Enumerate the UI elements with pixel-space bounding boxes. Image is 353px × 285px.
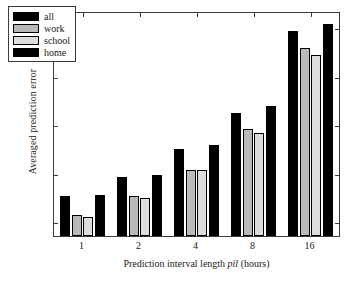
x-tick-mark-top: [83, 13, 84, 17]
bar-work-2: [129, 196, 139, 236]
legend-label-all: all: [44, 11, 54, 22]
bar-all-8: [231, 113, 241, 236]
legend-label-school: school: [44, 35, 70, 46]
x-tick-label: 4: [176, 240, 216, 251]
bar-work-16: [300, 48, 310, 236]
x-tick-mark-top: [311, 13, 312, 17]
bar-school-2: [140, 198, 150, 236]
bar-school-1: [83, 217, 93, 236]
bar-school-4: [197, 170, 207, 236]
bar-home-1: [95, 195, 105, 236]
x-axis-label: Prediction interval length pil (hours): [53, 258, 340, 269]
bar-work-8: [243, 129, 253, 236]
y-tick-mark: [54, 175, 58, 176]
bar-all-1: [60, 196, 70, 236]
x-tick-mark-top: [197, 13, 198, 17]
bar-all-4: [174, 149, 184, 236]
bar-home-8: [266, 106, 276, 236]
legend-swatch-all: [13, 12, 39, 21]
x-tick-mark-top: [140, 13, 141, 17]
plot-area: 0.050.10.150.20.25: [53, 12, 340, 237]
legend-label-home: home: [44, 47, 66, 58]
legend: allworkschoolhome: [8, 6, 76, 62]
legend-item-work: work: [13, 22, 70, 34]
bar-school-16: [311, 55, 321, 236]
bar-home-16: [323, 24, 333, 236]
bar-home-2: [152, 175, 162, 236]
x-tick-label: 16: [290, 240, 330, 251]
y-tick-mark-right: [335, 223, 339, 224]
x-tick-mark-top: [254, 13, 255, 17]
y-tick-mark-right: [335, 126, 339, 127]
bar-all-2: [117, 177, 127, 236]
bar-work-4: [186, 170, 196, 236]
legend-swatch-home: [13, 48, 39, 57]
x-axis-label-italic: pil: [228, 258, 239, 269]
legend-swatch-work: [13, 24, 39, 33]
y-tick-mark-right: [335, 78, 339, 79]
legend-swatch-school: [13, 36, 39, 45]
x-tick-label: 8: [233, 240, 273, 251]
legend-item-home: home: [13, 46, 70, 58]
x-axis-label-suffix: (hours): [238, 258, 269, 269]
y-tick-mark-right: [335, 29, 339, 30]
y-tick-mark-right: [335, 175, 339, 176]
bar-work-1: [72, 215, 82, 236]
bar-all-16: [288, 31, 298, 236]
bar-home-4: [209, 145, 219, 236]
figure: Averaged prediction error 0.050.10.150.2…: [0, 0, 353, 285]
legend-item-school: school: [13, 34, 70, 46]
legend-label-work: work: [44, 23, 65, 34]
x-axis-label-prefix: Prediction interval length: [123, 258, 227, 269]
legend-item-all: all: [13, 10, 70, 22]
bar-school-8: [254, 133, 264, 236]
x-tick-label: 1: [62, 240, 102, 251]
y-tick-mark: [54, 126, 58, 127]
y-tick-mark: [54, 78, 58, 79]
y-tick-mark: [54, 223, 58, 224]
x-tick-label: 2: [119, 240, 159, 251]
